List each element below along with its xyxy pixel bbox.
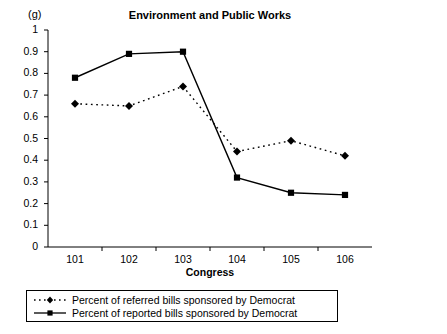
y-tick-label: 0.9 xyxy=(8,46,38,57)
solid-square-key xyxy=(33,307,67,319)
y-tick-label: 0.7 xyxy=(8,89,38,100)
y-tick-label: 0.8 xyxy=(8,67,38,78)
legend: Percent of referred bills sponsored by D… xyxy=(26,290,338,322)
data-point-marker xyxy=(125,102,133,110)
data-point-marker xyxy=(234,174,240,180)
data-point-marker xyxy=(71,100,79,108)
data-point-marker xyxy=(341,152,349,160)
y-tick-label: 0 xyxy=(8,241,38,252)
y-tick-label: 0.6 xyxy=(8,111,38,122)
dotted-diamond-key xyxy=(33,294,67,306)
legend-label-referred: Percent of referred bills sponsored by D… xyxy=(72,294,295,306)
y-tick-label: 0.3 xyxy=(8,176,38,187)
legend-item-reported: Percent of reported bills sponsored by D… xyxy=(33,306,297,320)
y-tick-label: 0.1 xyxy=(8,219,38,230)
x-tick-label: 104 xyxy=(210,254,264,265)
data-point-marker xyxy=(288,190,294,196)
data-point-marker xyxy=(287,137,295,145)
x-tick-label: 106 xyxy=(318,254,372,265)
x-tick-label: 102 xyxy=(102,254,156,265)
y-tick-label: 0.5 xyxy=(8,133,38,144)
data-point-marker xyxy=(72,75,78,81)
y-tick-label: 0.2 xyxy=(8,198,38,209)
data-point-marker xyxy=(179,82,187,90)
data-point-marker xyxy=(126,51,132,57)
legend-item-referred: Percent of referred bills sponsored by D… xyxy=(33,293,295,307)
axes xyxy=(44,30,372,251)
data-series xyxy=(71,49,349,198)
x-tick-label: 105 xyxy=(264,254,318,265)
series-line xyxy=(75,86,345,155)
legend-label-reported: Percent of reported bills sponsored by D… xyxy=(72,307,297,319)
x-tick-label: 103 xyxy=(156,254,210,265)
y-tick-label: 1 xyxy=(8,24,38,35)
data-point-marker xyxy=(180,49,186,55)
chart-figure: (g) Environment and Public Works 00.10.2… xyxy=(0,0,447,334)
data-point-marker xyxy=(342,192,348,198)
x-axis-title: Congress xyxy=(48,266,372,278)
series-line xyxy=(75,52,345,195)
plot-area xyxy=(0,0,447,334)
y-tick-label: 0.4 xyxy=(8,154,38,165)
x-tick-label: 101 xyxy=(48,254,102,265)
